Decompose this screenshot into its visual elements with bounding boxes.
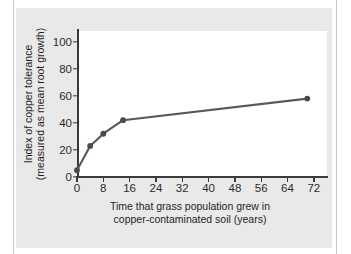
x-tick-mark [103,178,104,182]
x-tick-label: 16 [118,182,142,194]
x-tick-label: 32 [170,182,194,194]
y-tick-mark [73,68,77,69]
x-tick-mark [234,178,235,182]
x-tick-label: 64 [276,182,300,194]
y-tick-mark [73,149,77,150]
x-tick-label: 56 [249,182,273,194]
x-tick-mark [261,178,262,182]
y-tick-mark [73,41,77,42]
x-tick-mark [182,178,183,182]
x-tick-mark [208,178,209,182]
x-axis-line [76,176,328,178]
x-tick-label: 40 [197,182,221,194]
x-tick-mark [155,178,156,182]
x-tick-mark [313,178,314,182]
x-axis-label-line1: Time that grass population grew in [60,200,320,213]
y-axis-label-line1: Index of copper tolerance [22,45,35,164]
y-axis-label: Index of copper tolerance (measured as m… [18,31,50,177]
y-axis-label-line2: (measured as mean root growth) [34,28,47,180]
x-tick-mark [76,178,77,182]
x-tick-label: 48 [223,182,247,194]
x-tick-mark [129,178,130,182]
y-tick-mark [73,95,77,96]
x-tick-label: 0 [65,182,89,194]
page-right-rule [336,0,337,254]
x-tick-label: 72 [302,182,326,194]
x-tick-mark [287,178,288,182]
y-tick-mark [73,122,77,123]
page-left-rule [13,0,14,254]
plot-area [77,31,327,177]
x-axis-label: Time that grass population grew in coppe… [60,200,320,226]
x-tick-label: 24 [144,182,168,194]
chart-figure: 020406080100 081624324048566472 Index of… [0,0,351,254]
x-axis-label-line2: copper-contaminated soil (years) [60,213,320,226]
x-tick-label: 8 [91,182,115,194]
y-axis-line [77,29,79,178]
